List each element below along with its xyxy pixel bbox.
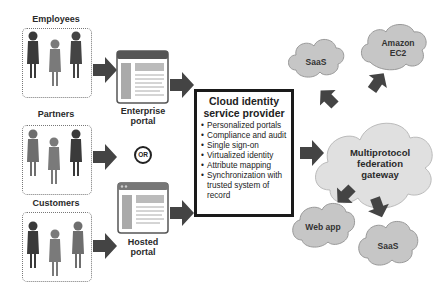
arrow-employees (93, 57, 117, 83)
enterprise-portal-label: Enterprise portal (110, 106, 176, 126)
gateway-line3: gateway (332, 169, 428, 180)
gateway-line1: Multiprotocol (332, 147, 428, 158)
enterprise-portal-line1: Enterprise (110, 106, 176, 116)
amazon-line1: Amazon (370, 38, 426, 48)
provider-title-line2: service provider (201, 107, 287, 119)
customers-label: Customers (22, 198, 90, 208)
feature-item: Virtualized identity (201, 151, 287, 161)
employees-label: Employees (22, 14, 90, 24)
or-label: OR (135, 151, 151, 158)
cloud-identity-provider-box: Cloud identity service provider Personal… (194, 89, 294, 217)
hosted-portal-label: Hosted portal (110, 237, 176, 257)
arrow-to-amazon-ec2 (363, 67, 393, 96)
provider-feature-list: Personalized portals Compliance and audi… (201, 121, 287, 201)
hosted-portal-line1: Hosted (110, 237, 176, 247)
employees-group (22, 28, 92, 98)
provider-title: Cloud identity service provider (201, 95, 287, 119)
saas-top-label: SaaS (292, 57, 340, 67)
feature-item: Synchronization with trusted system of r… (201, 171, 287, 201)
provider-title-line1: Cloud identity (201, 95, 287, 107)
amazon-ec2-label: Amazon EC2 (370, 38, 426, 58)
feature-item: Personalized portals (201, 121, 287, 131)
hosted-portal-icon (118, 183, 168, 233)
gateway-label: Multiprotocol federation gateway (332, 147, 428, 180)
customers-group (22, 212, 92, 282)
webapp-label: Web app (296, 222, 350, 232)
partners-group (22, 125, 92, 195)
feature-item: Compliance and audit (201, 131, 287, 141)
arrow-hosted-to-provider (170, 200, 194, 226)
feature-item: Single sign-on (201, 141, 287, 151)
hosted-portal-line2: portal (110, 247, 176, 257)
arrow-enterprise-to-provider (170, 72, 194, 98)
enterprise-portal-icon (117, 51, 168, 103)
saas-bottom-label: SaaS (362, 241, 414, 251)
arrow-partners (93, 144, 117, 170)
feature-item: Attribute mapping (201, 161, 287, 171)
gateway-line2: federation (332, 158, 428, 169)
amazon-line2: EC2 (370, 48, 426, 58)
arrow-to-saas-top (313, 83, 343, 113)
partners-label: Partners (22, 109, 90, 119)
enterprise-portal-line2: portal (110, 116, 176, 126)
arrow-provider-to-gateway (300, 140, 324, 166)
